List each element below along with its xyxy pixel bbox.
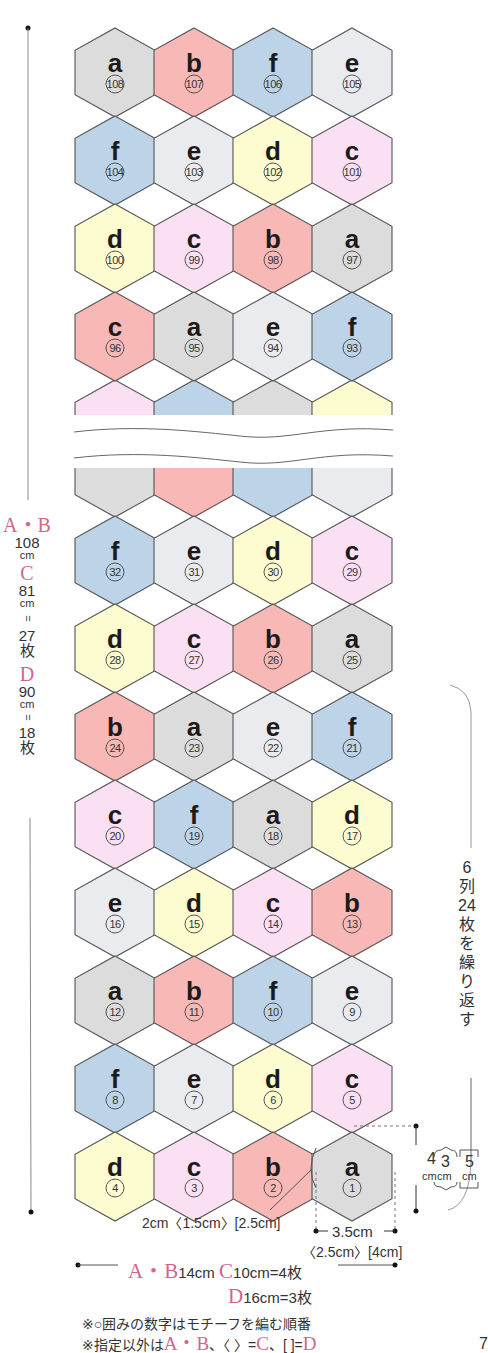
yarn-color-letter: c (345, 136, 359, 166)
motif-order-number: 6 (270, 1094, 276, 1106)
bottom-dimension-label: A・B14cm C10cm=4枚 (128, 1254, 302, 1284)
yarn-color-letter: a (187, 312, 202, 342)
note-ab: A・B (164, 1333, 209, 1353)
motif-hexagon: e22 (233, 692, 313, 781)
repeat-note: 6 列 24 枚 を 繰 り 返 す (456, 858, 478, 1029)
motif-order-number: 3 (191, 1182, 197, 1194)
motif-hexagon: a23 (154, 692, 234, 781)
motif-order-number: 98 (267, 254, 279, 266)
gap-label: 2cm〈1.5cm〉[2.5cm] (142, 1212, 280, 1232)
yarn-color-letter: e (345, 48, 359, 78)
ab-length-value: 108 (2, 535, 52, 550)
motif-order-number: 10 (267, 1006, 279, 1018)
motif-order-number: 97 (346, 254, 358, 266)
height-ab-value: 4 (424, 1150, 439, 1168)
repeat-note-char: り (456, 972, 478, 991)
motif-hexagon: e7 (154, 1044, 234, 1133)
motif-hexagon: b26 (233, 604, 313, 693)
yarn-color-letter: c (108, 800, 122, 830)
height-d-value: 5 (465, 1153, 474, 1171)
note-prefix: ※指定以外は (82, 1337, 164, 1353)
height-c-value: 3 (441, 1153, 450, 1171)
lower-motif-grid: f32e31d30c29d28c27b26a25b24a23e22f21c20f… (75, 428, 392, 1221)
motif-hexagon: f32 (75, 516, 155, 605)
yarn-color-letter: a (266, 800, 281, 830)
c-count-unit: 枚 (2, 643, 52, 658)
yarn-color-letter: a (345, 224, 360, 254)
repeat-note-char: 列 (456, 877, 478, 896)
motif-hexagon: b13 (312, 868, 392, 957)
motif-hexagon: e103 (154, 116, 234, 205)
note-order: ※○囲みの数字はモチーフを編む順番 (82, 1315, 317, 1334)
motif-hexagon: d4 (75, 1132, 155, 1221)
motif-order-number: 29 (346, 566, 358, 578)
motif-order-number: 30 (267, 566, 279, 578)
repeat-note-char: 返 (456, 991, 478, 1010)
motif-order-number: 17 (346, 830, 358, 842)
motif-hexagon (75, 380, 155, 469)
size-ab-label: A・B (2, 515, 52, 535)
motif-hexagon: f8 (75, 1044, 155, 1133)
motif-order-number: 99 (188, 254, 200, 266)
motif-hexagon: a95 (154, 292, 234, 381)
upper-motif-grid: a108b107f106e105f104e103d102c101d100c99b… (75, 28, 392, 469)
motif-hexagon: e105 (312, 28, 392, 117)
motif-hexagon: f93 (312, 292, 392, 381)
yarn-color-letter: e (266, 712, 280, 742)
yarn-color-letter: d (265, 1064, 281, 1094)
motif-hexagon: a108 (75, 28, 155, 117)
yarn-color-letter: b (344, 888, 360, 918)
motif-hexagon: d15 (154, 868, 234, 957)
motif-hexagon: d6 (233, 1044, 313, 1133)
bottom-c-label: C (219, 1259, 233, 1283)
motif-order-number: 25 (346, 654, 358, 666)
size-d-label: D (2, 664, 52, 684)
width-ab-label: 3.5cm (332, 1223, 373, 1240)
bottom-d-value: 16cm=3枚 (243, 1289, 312, 1306)
motif-order-number: 21 (346, 742, 358, 754)
motif-order-number: 19 (188, 830, 200, 842)
motif-order-number: 15 (188, 918, 200, 930)
motif-order-number: 95 (188, 342, 200, 354)
motif-order-number: 31 (188, 566, 200, 578)
yarn-color-letter: c (345, 536, 359, 566)
motif-order-number: 18 (267, 830, 279, 842)
motif-order-number: 4 (112, 1182, 118, 1194)
yarn-color-letter: e (345, 976, 359, 1006)
repeat-note-char: 枚 (456, 915, 478, 934)
c-equals: = (22, 594, 33, 644)
bottom-ab-label: A・B (128, 1259, 178, 1283)
motif-order-number: 16 (109, 918, 121, 930)
motif-order-number: 20 (109, 830, 121, 842)
motif-hexagon: e94 (233, 292, 313, 381)
yarn-color-letter: f (348, 712, 357, 742)
motif-hexagon: a97 (312, 204, 392, 293)
motif-hexagon: c5 (312, 1044, 392, 1133)
yarn-color-letter: d (344, 800, 360, 830)
yarn-color-letter: c (266, 888, 280, 918)
motif-order-number: 12 (109, 1006, 121, 1018)
yarn-color-letter: f (190, 800, 199, 830)
motif-hexagon: e9 (312, 956, 392, 1045)
motif-order-number: 24 (109, 742, 121, 754)
motif-hexagon: d17 (312, 780, 392, 869)
motif-order-number: 107 (186, 78, 203, 90)
motif-hexagon: b11 (154, 956, 234, 1045)
size-c-label: C (2, 563, 52, 583)
left-dimension-labels: A・B 108 cm C 81 cm = 27 枚 D 90 cm = 18 枚 (2, 515, 52, 755)
yarn-color-letter: d (107, 1152, 123, 1182)
motif-hexagon: e31 (154, 516, 234, 605)
motif-hexagon: f10 (233, 956, 313, 1045)
bottom-d-dimension: D16cm=3枚 (228, 1284, 312, 1309)
yarn-color-letter: b (265, 224, 281, 254)
motif-order-number: 96 (109, 342, 121, 354)
yarn-color-letter: b (186, 976, 202, 1006)
note-mid2: 、[ ]= (269, 1337, 303, 1353)
motif-order-number: 11 (189, 1006, 200, 1018)
repeat-note-char: す (456, 1010, 478, 1029)
motif-hexagon: c96 (75, 292, 155, 381)
motif-order-number: 1 (349, 1182, 355, 1194)
yarn-color-letter: c (187, 624, 201, 654)
motif-hexagon: b24 (75, 692, 155, 781)
